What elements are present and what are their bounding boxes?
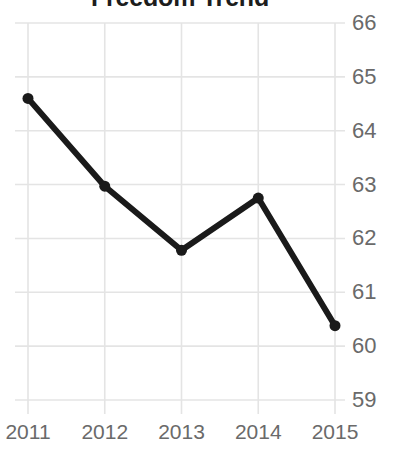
data-point-2011 <box>23 93 34 104</box>
y-tick-label-60: 60 <box>352 335 398 357</box>
plot-area <box>0 0 402 418</box>
y-tick-label-65: 65 <box>352 66 398 88</box>
y-tick-label-62: 62 <box>352 227 398 249</box>
data-point-2013 <box>176 245 187 256</box>
y-tick-label-66: 66 <box>352 12 398 34</box>
x-tick-label-2015: 2015 <box>290 420 380 444</box>
data-point-2014 <box>253 193 264 204</box>
chart-container: Freedom Trend 6665646362616059 201120122… <box>0 0 402 452</box>
vertical-gridlines <box>28 23 335 414</box>
y-tick-label-64: 64 <box>352 120 398 142</box>
line-chart-svg <box>0 0 402 418</box>
horizontal-gridlines <box>15 23 345 400</box>
data-point-2015 <box>330 320 341 331</box>
y-tick-label-63: 63 <box>352 174 398 196</box>
y-tick-label-61: 61 <box>352 281 398 303</box>
data-point-2012 <box>99 181 110 192</box>
y-tick-label-59: 59 <box>352 389 398 411</box>
